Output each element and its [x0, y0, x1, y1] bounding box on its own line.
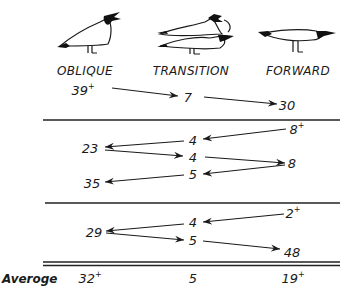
sequence-block-3: 2+ 4 29 5 48: [86, 205, 301, 260]
average-row: Averoge 32+ 5 19+: [1, 270, 305, 286]
column-label-transition: TRANSITION: [153, 64, 229, 78]
node-value: 35: [84, 176, 101, 191]
transition-gull-icon: [157, 14, 234, 54]
transition-arrow: [106, 233, 184, 240]
transition-arrow: [106, 224, 184, 231]
transition-arrow: [105, 141, 184, 147]
node-value: 4: [189, 150, 197, 165]
average-forward: 19+: [281, 270, 304, 286]
node-value: 23: [82, 141, 99, 156]
posture-transition-diagram: OBLIQUE TRANSITION FORWARD 39+ 7 30 8+ 4…: [0, 0, 356, 295]
node-value: 39+: [71, 82, 94, 98]
average-label: Averoge: [1, 272, 57, 286]
transition-arrow: [105, 175, 184, 182]
transition-arrow: [203, 214, 284, 222]
sequence-block-2: 8+ 4 23 4 8 5 35: [82, 121, 305, 191]
node-value: 29: [86, 225, 103, 240]
node-value: 5: [189, 167, 197, 182]
average-oblique: 32+: [78, 270, 101, 286]
node-value: 2+: [286, 205, 301, 221]
node-value: 30: [279, 98, 296, 113]
column-label-oblique: OBLIQUE: [57, 64, 113, 78]
node-value: 5: [189, 233, 197, 248]
transition-arrow: [203, 241, 280, 249]
average-transition: 5: [189, 271, 197, 286]
transition-arrow: [203, 129, 286, 139]
transition-arrow: [204, 97, 277, 104]
node-value: 8+: [290, 121, 305, 137]
node-value: 48: [284, 245, 301, 260]
sequence-block-1: 39+ 7 30: [71, 82, 295, 113]
forward-gull-icon: [258, 30, 336, 52]
column-label-forward: FORWARD: [266, 64, 330, 78]
transition-arrow: [112, 88, 178, 96]
transition-arrow: [203, 165, 285, 174]
transition-arrow: [105, 150, 183, 156]
node-value: 4: [189, 133, 197, 148]
oblique-gull-icon: [57, 12, 121, 53]
node-value: 4: [189, 215, 197, 230]
node-value: 8: [288, 156, 296, 171]
transition-arrow: [205, 157, 285, 163]
node-value: 7: [184, 90, 193, 105]
